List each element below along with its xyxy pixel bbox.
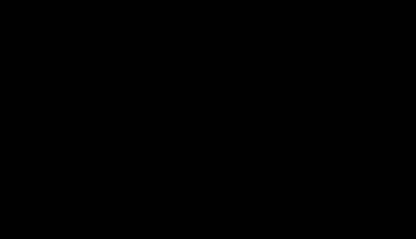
paper-background bbox=[0, 0, 416, 239]
cell-illustration-canvas bbox=[0, 0, 416, 239]
figure-container bbox=[0, 0, 416, 239]
